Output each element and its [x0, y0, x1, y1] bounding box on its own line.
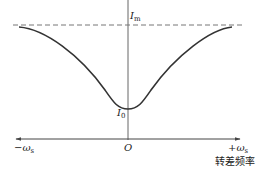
x-axis-title: 转差频率 — [215, 155, 255, 167]
current-curve — [19, 27, 232, 109]
im-label: Im — [129, 10, 141, 23]
current-slip-diagram: Im I0 O −ωs +ωs 转差频率 — [0, 0, 258, 172]
origin-label: O — [124, 142, 132, 153]
neg-ws-label: −ωs — [14, 142, 35, 155]
pos-ws-label: +ωs — [228, 142, 249, 155]
